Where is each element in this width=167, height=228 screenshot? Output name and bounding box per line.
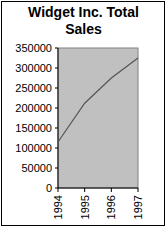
- y-tick-label: 200000: [15, 102, 52, 114]
- y-tick-label: 50000: [21, 162, 52, 174]
- x-tick-label: 1997: [132, 195, 144, 219]
- y-tick-label: 300000: [15, 62, 52, 74]
- y-tick-label: 0: [46, 182, 52, 194]
- x-tick-label: 1996: [105, 195, 117, 219]
- y-tick-label: 150000: [15, 122, 52, 134]
- x-tick-label: 1994: [52, 195, 64, 219]
- y-tick-label: 350000: [15, 42, 52, 54]
- line-chart: 0500001000001500002000002500003000003500…: [0, 0, 167, 228]
- y-tick-label: 250000: [15, 82, 52, 94]
- y-tick-label: 100000: [15, 142, 52, 154]
- x-tick-label: 1995: [79, 195, 91, 219]
- plot-area: [58, 48, 138, 188]
